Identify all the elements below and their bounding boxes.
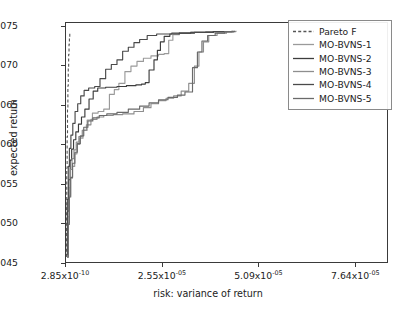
legend-item-mo-bvns-4[interactable]: MO-BVNS-4 xyxy=(293,78,386,91)
legend-label: MO-BVNS-1 xyxy=(319,40,372,49)
series-line-mo-bvns-2 xyxy=(67,31,232,255)
legend-line-icon xyxy=(293,54,314,63)
series-line-mo-bvns-4 xyxy=(67,31,234,254)
legend-label: MO-BVNS-3 xyxy=(319,67,372,76)
x-tick-label: 2.85x10-10 xyxy=(41,270,90,280)
x-tick-label: 5.09x10-05 xyxy=(234,270,283,280)
legend-label: MO-BVNS-2 xyxy=(319,54,372,63)
legend-item-mo-bvns-5[interactable]: MO-BVNS-5 xyxy=(293,91,386,104)
legend-box: Pareto FMO-BVNS-1MO-BVNS-2MO-BVNS-3MO-BV… xyxy=(288,20,392,110)
x-tick-mark xyxy=(65,263,66,267)
legend-line-icon xyxy=(293,94,314,103)
x-tick-label: 2.55x10-05 xyxy=(138,270,187,280)
figure-canvas: expected return risk: variance of return… xyxy=(0,0,416,311)
x-tick-mark xyxy=(355,263,356,267)
legend-line-icon xyxy=(293,67,314,76)
legend-item-mo-bvns-1[interactable]: MO-BVNS-1 xyxy=(293,38,386,51)
y-tick-label: 0.065 xyxy=(0,100,18,109)
legend-line-icon xyxy=(293,80,314,89)
y-tick-label: 0.055 xyxy=(0,179,18,188)
legend-line-icon xyxy=(293,27,314,36)
y-tick-label: 0.075 xyxy=(0,21,18,30)
y-tick-label: 0.050 xyxy=(0,218,18,227)
y-tick-label: 0.070 xyxy=(0,60,18,69)
legend-label: MO-BVNS-5 xyxy=(319,94,372,103)
x-tick-label: 7.64x10-05 xyxy=(331,270,380,280)
legend-line-icon xyxy=(293,40,314,49)
x-axis-label: risk: variance of return xyxy=(0,288,416,299)
series-line-mo-bvns-1 xyxy=(67,31,232,257)
x-tick-mark xyxy=(258,263,259,267)
y-tick-label: 0.060 xyxy=(0,139,18,148)
legend-item-mo-bvns-2[interactable]: MO-BVNS-2 xyxy=(293,52,386,65)
legend-item-mo-bvns-3[interactable]: MO-BVNS-3 xyxy=(293,65,386,78)
legend-label: Pareto F xyxy=(319,27,356,36)
series-line-mo-bvns-3 xyxy=(67,31,236,257)
series-line-mo-bvns-5 xyxy=(67,31,234,257)
legend-item-pareto-f[interactable]: Pareto F xyxy=(293,25,386,38)
legend-label: MO-BVNS-4 xyxy=(319,80,372,89)
x-tick-mark xyxy=(162,263,163,267)
y-tick-label: 0.045 xyxy=(0,258,18,267)
